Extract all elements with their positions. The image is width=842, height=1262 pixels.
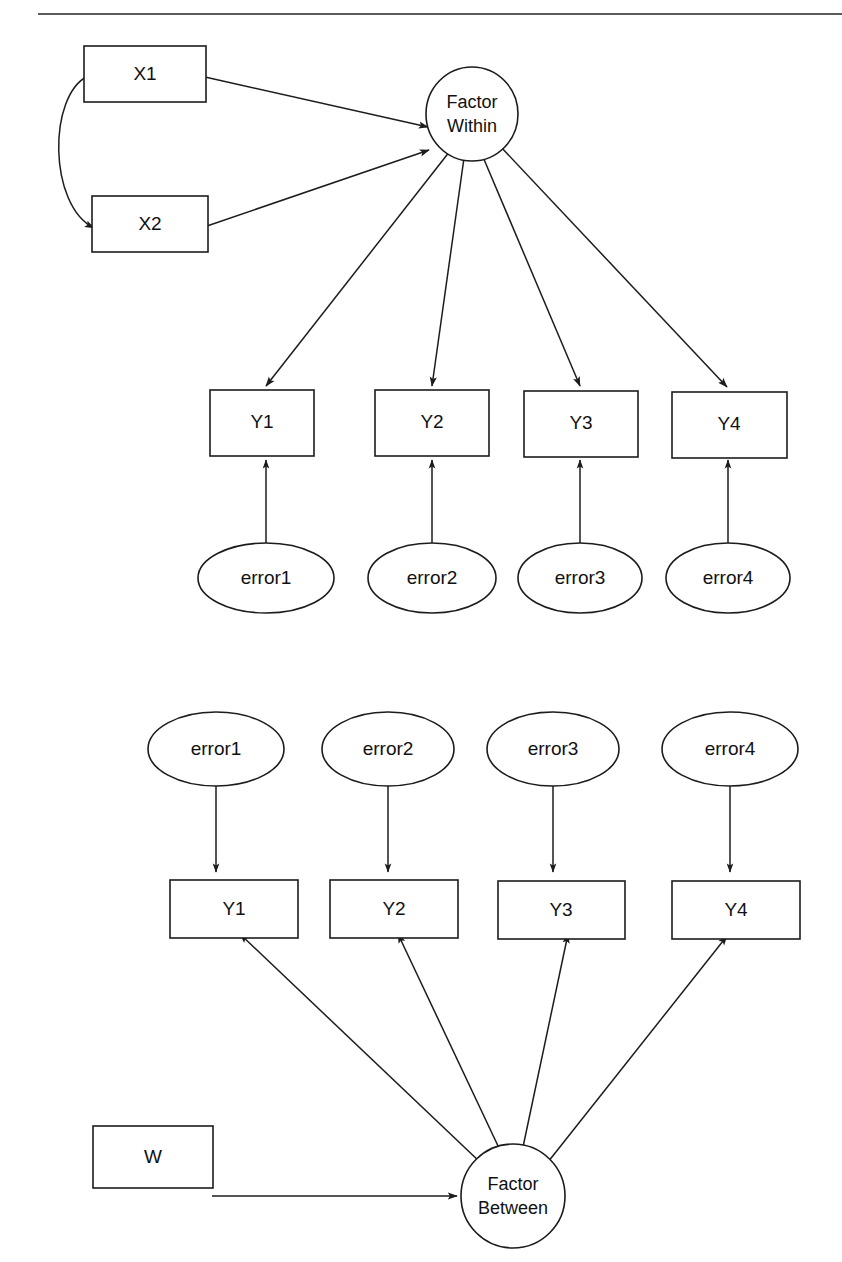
edge-factor-within-to-y4 [500,146,727,387]
edge-factor-within-to-y3 [483,157,580,386]
edge-x1-to-factor-within [205,77,428,127]
node-x1[interactable]: X1 [84,46,206,102]
node-w[interactable]: W [93,1126,213,1188]
node-y2-between-label: Y2 [382,898,405,919]
node-y2-within[interactable]: Y2 [375,390,489,456]
node-error3-between[interactable]: error3 [487,712,619,786]
node-factor-between-label-line1: Factor [487,1174,538,1194]
node-error1-within-label: error1 [241,567,292,588]
node-error1-within[interactable]: error1 [198,543,334,613]
edge-x2-to-factor-within [207,150,429,226]
node-error1-between[interactable]: error1 [148,712,284,786]
node-y1-within[interactable]: Y1 [210,390,314,456]
path-diagram: X1 X2 Factor Within Y1 Y2 [0,0,842,1262]
node-y1-between-label: Y1 [222,898,245,919]
node-error4-within[interactable]: error4 [666,543,790,613]
between-model-group: error1 error2 error3 error4 Y1 Y2 [93,712,800,1248]
node-y3-between-label: Y3 [549,899,572,920]
node-x2[interactable]: X2 [92,196,208,252]
node-y3-within[interactable]: Y3 [524,391,638,457]
edge-factor-between-to-y4 [548,936,727,1162]
node-y4-between-label: Y4 [724,899,748,920]
node-y4-within-label: Y4 [717,413,741,434]
node-error2-within-label: error2 [407,567,458,588]
node-factor-between[interactable]: Factor Between [461,1144,565,1248]
node-y3-within-label: Y3 [569,412,592,433]
node-error3-between-label: error3 [528,738,579,759]
node-y3-between[interactable]: Y3 [498,881,625,939]
node-error1-between-label: error1 [191,738,242,759]
node-error4-between[interactable]: error4 [662,712,798,786]
edge-factor-between-to-y3 [523,934,568,1147]
within-model-group: X1 X2 Factor Within Y1 Y2 [59,46,790,613]
node-error3-within[interactable]: error3 [518,543,642,613]
node-y2-within-label: Y2 [420,411,443,432]
edge-factor-between-to-y1 [240,934,481,1163]
node-w-label: W [144,1146,162,1167]
node-factor-within-label-line1: Factor [446,92,497,112]
node-x2-label: X2 [138,213,161,234]
node-y2-between[interactable]: Y2 [330,880,458,938]
node-error3-within-label: error3 [555,567,606,588]
node-y4-within[interactable]: Y4 [672,392,787,458]
node-error2-between[interactable]: error2 [322,712,454,786]
node-error2-between-label: error2 [363,738,414,759]
node-factor-within[interactable]: Factor Within [426,67,518,161]
node-error4-within-label: error4 [703,567,754,588]
node-y4-between[interactable]: Y4 [672,881,800,939]
page-root: X1 X2 Factor Within Y1 Y2 [0,0,842,1262]
node-y1-between[interactable]: Y1 [170,880,298,938]
node-error4-between-label: error4 [705,738,756,759]
node-error2-within[interactable]: error2 [368,543,496,613]
node-x1-label: X1 [133,63,156,84]
node-factor-between-label-line2: Between [478,1198,548,1218]
edge-factor-within-to-y1 [266,151,450,386]
node-y1-within-label: Y1 [250,411,273,432]
edge-factor-within-to-y2 [432,158,464,386]
edge-factor-between-to-y2 [398,934,499,1148]
node-factor-within-label-line2: Within [447,116,497,136]
